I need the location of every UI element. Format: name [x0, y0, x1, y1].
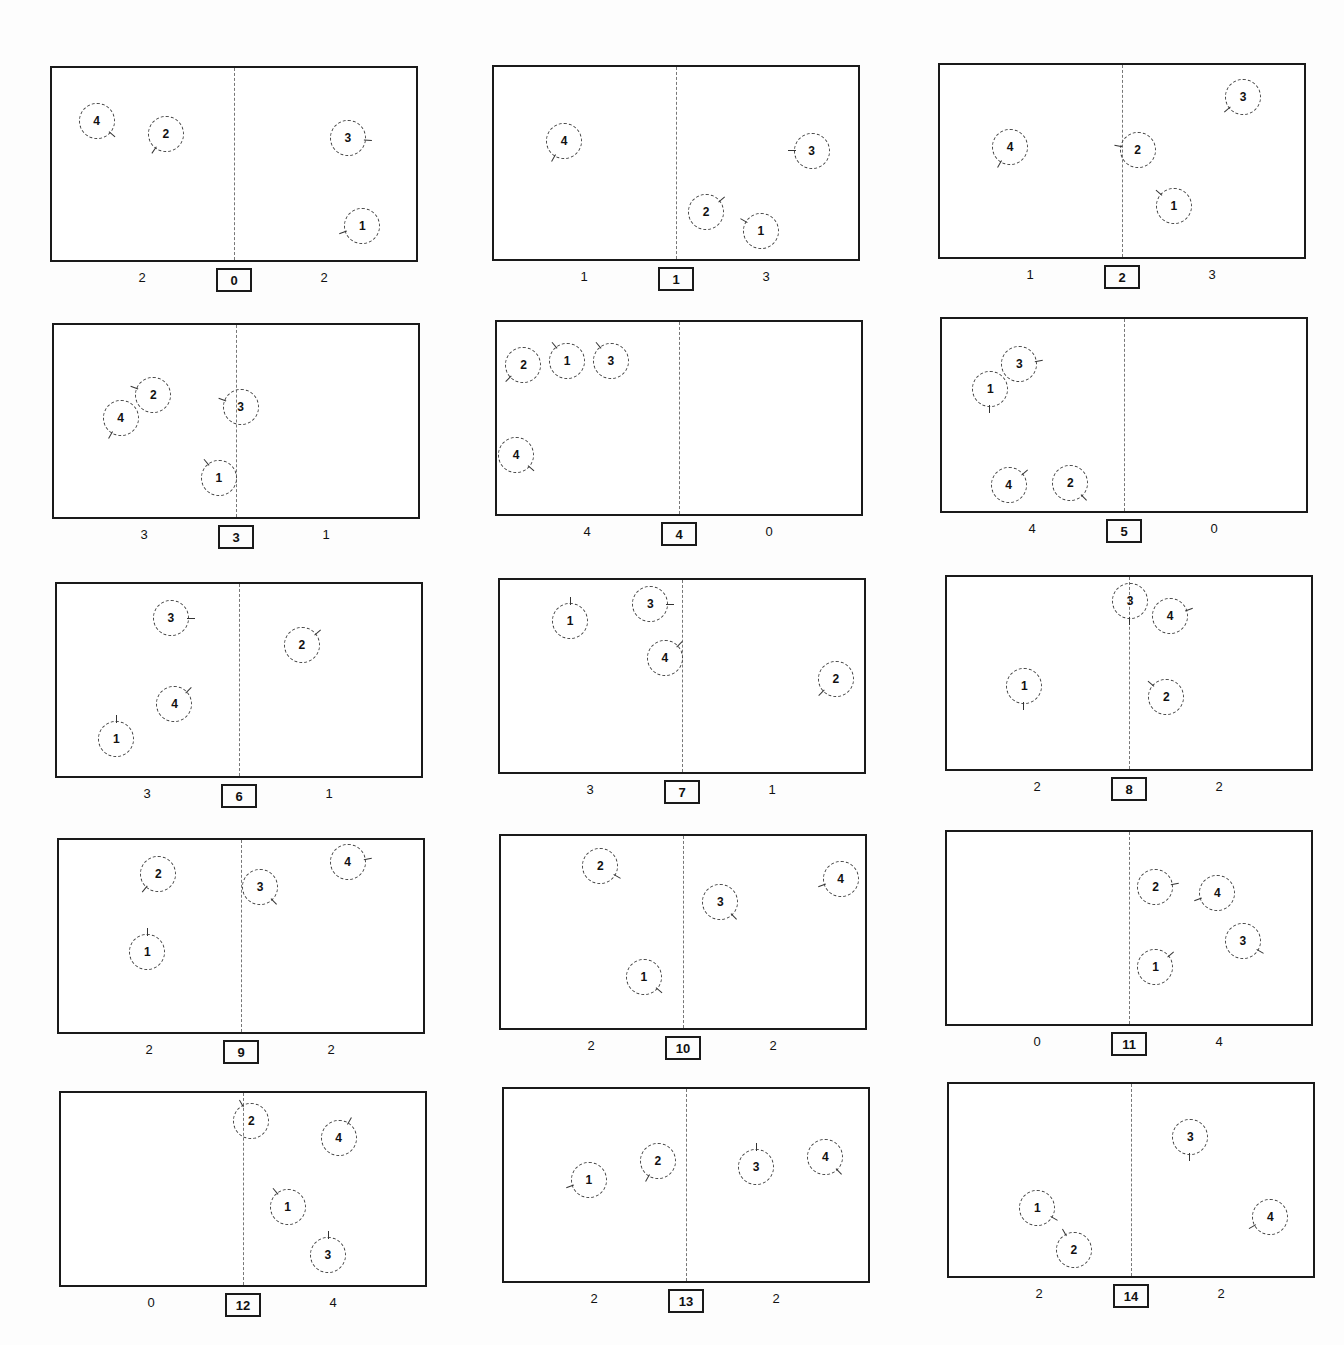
- agent-circle-3: 3: [593, 343, 629, 379]
- agent-circle-4: 4: [823, 861, 859, 897]
- agent-label: 1: [564, 354, 571, 368]
- agent-circle-3: 3: [242, 869, 278, 905]
- frame-number: 0: [216, 268, 252, 292]
- agent-circle-4: 4: [807, 1139, 843, 1175]
- agent-label: 1: [113, 732, 120, 746]
- arena-box: 2431: [945, 830, 1313, 1026]
- frame-number: 4: [661, 522, 697, 546]
- agent-circle-4: 4: [79, 103, 115, 139]
- agent-circle-4: 4: [1252, 1199, 1288, 1235]
- panel-frame-11: 24310114: [945, 830, 1313, 1070]
- agent-label: 3: [1239, 934, 1246, 948]
- heading-tick-icon: [151, 147, 156, 154]
- agent-label: 1: [1034, 1201, 1041, 1215]
- left-count: 3: [580, 782, 600, 797]
- arena-box: 2134: [495, 320, 863, 516]
- heading-tick-icon: [1023, 702, 1024, 710]
- agent-circle-4: 4: [330, 844, 366, 880]
- panel-frame-7: 1342371: [498, 578, 866, 818]
- panel-footer: 2132: [502, 1289, 870, 1313]
- heading-tick-icon: [1224, 106, 1231, 112]
- agent-label: 3: [344, 131, 351, 145]
- left-count: 2: [139, 1042, 159, 1057]
- heading-tick-icon: [1081, 495, 1087, 501]
- dashed-midline: [239, 584, 240, 776]
- agent-circle-3: 3: [310, 1237, 346, 1273]
- agent-circle-1: 1: [270, 1189, 306, 1225]
- frame-number: 11: [1111, 1032, 1147, 1056]
- agent-label: 1: [1171, 199, 1178, 213]
- heading-tick-icon: [718, 197, 725, 203]
- heading-tick-icon: [347, 1117, 352, 1124]
- dashed-midline: [679, 322, 680, 514]
- frame-number: 5: [1106, 519, 1142, 543]
- agent-label: 4: [171, 697, 178, 711]
- arena-box: 3412: [945, 575, 1313, 771]
- right-count: 2: [1209, 779, 1229, 794]
- dashed-midline: [682, 580, 683, 772]
- agent-label: 4: [335, 1131, 342, 1145]
- agent-circle-2: 2: [640, 1143, 676, 1179]
- right-count: 1: [319, 786, 339, 801]
- heading-tick-icon: [364, 140, 372, 142]
- panel-footer: 371: [498, 780, 866, 804]
- heading-tick-icon: [1114, 145, 1122, 147]
- agent-label: 4: [837, 872, 844, 886]
- heading-tick-icon: [551, 154, 556, 161]
- agent-label: 3: [1127, 594, 1134, 608]
- agent-circle-3: 3: [1001, 346, 1037, 382]
- arena-box: 4321: [492, 65, 860, 261]
- agent-circle-4: 4: [647, 640, 683, 676]
- panel-footer: 2142: [947, 1284, 1315, 1308]
- agent-circle-4: 4: [991, 467, 1027, 503]
- agent-circle-2: 2: [505, 347, 541, 383]
- agent-label: 2: [1070, 1243, 1077, 1257]
- left-count: 2: [1027, 779, 1047, 794]
- agent-circle-4: 4: [156, 686, 192, 722]
- agent-circle-3: 3: [1225, 923, 1261, 959]
- agent-label: 1: [215, 471, 222, 485]
- panel-footer: 440: [495, 522, 863, 546]
- left-count: 2: [132, 270, 152, 285]
- heading-tick-icon: [836, 1169, 842, 1175]
- dashed-midline: [234, 68, 235, 260]
- heading-tick-icon: [339, 231, 347, 235]
- left-count: 0: [1027, 1034, 1047, 1049]
- agent-label: 2: [833, 672, 840, 686]
- panel-footer: 361: [55, 784, 423, 808]
- agent-circle-2: 2: [1120, 132, 1156, 168]
- heading-tick-icon: [271, 898, 277, 904]
- dashed-midline: [1131, 1084, 1132, 1276]
- agent-circle-1: 1: [1019, 1190, 1055, 1226]
- heading-tick-icon: [570, 597, 571, 605]
- arena-box: 2341: [499, 834, 867, 1030]
- agent-circle-2: 2: [140, 856, 176, 892]
- agent-circle-3: 3: [794, 133, 830, 169]
- panel-frame-4: 2134440: [495, 320, 863, 560]
- agent-label: 1: [1021, 679, 1028, 693]
- right-count: 2: [1211, 1286, 1231, 1301]
- arena-box: 3124: [947, 1082, 1315, 1278]
- agent-circle-3: 3: [1172, 1119, 1208, 1155]
- agent-label: 4: [561, 134, 568, 148]
- frame-number: 1: [658, 267, 694, 291]
- heading-tick-icon: [363, 858, 371, 860]
- agent-label: 4: [117, 411, 124, 425]
- agent-label: 4: [1005, 478, 1012, 492]
- right-count: 4: [1209, 1034, 1229, 1049]
- right-count: 1: [316, 527, 336, 542]
- heading-tick-icon: [656, 987, 663, 993]
- agent-circle-4: 4: [1152, 598, 1188, 634]
- heading-tick-icon: [1035, 360, 1043, 362]
- heading-tick-icon: [818, 690, 824, 696]
- heading-tick-icon: [116, 715, 117, 723]
- panel-footer: 292: [57, 1040, 425, 1064]
- agent-circle-4: 4: [498, 437, 534, 473]
- right-count: 2: [763, 1038, 783, 1053]
- heading-tick-icon: [1256, 949, 1263, 954]
- dashed-midline: [1129, 832, 1130, 1024]
- agent-circle-1: 1: [98, 721, 134, 757]
- right-count: 1: [762, 782, 782, 797]
- agent-circle-2: 2: [1052, 465, 1088, 501]
- agent-label: 2: [1152, 880, 1159, 894]
